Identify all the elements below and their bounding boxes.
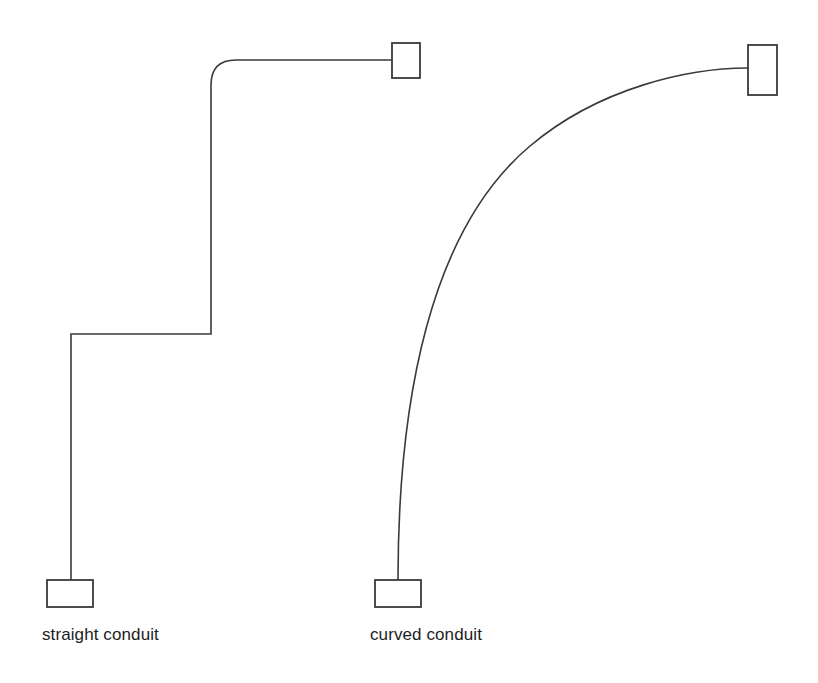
- straight-conduit-caption: straight conduit: [42, 626, 159, 643]
- straight-conduit-bottom-terminal: [47, 580, 93, 607]
- straight-conduit-path: [71, 60, 392, 580]
- curved-conduit-figure: [375, 45, 777, 607]
- conduit-diagram: straight conduit curved conduit: [0, 0, 818, 683]
- straight-conduit-figure: [47, 43, 420, 607]
- diagram-canvas: [0, 0, 818, 683]
- curved-conduit-caption: curved conduit: [370, 626, 482, 643]
- curved-conduit-top-terminal: [748, 45, 777, 95]
- curved-conduit-path: [398, 68, 748, 580]
- curved-conduit-bottom-terminal: [375, 580, 421, 607]
- straight-conduit-top-terminal: [392, 43, 420, 78]
